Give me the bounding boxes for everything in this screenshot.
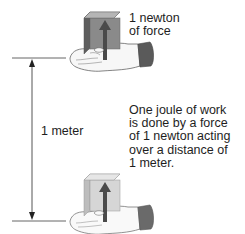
distance-label: 1 meter bbox=[41, 125, 83, 138]
sleeve-cuff-icon bbox=[138, 42, 154, 67]
description-line-4: over a distance of bbox=[129, 144, 230, 157]
sleeve-cuff-icon bbox=[138, 205, 154, 230]
force-arrow-shaft bbox=[103, 28, 107, 60]
force-label: 1 newton of force bbox=[129, 12, 180, 38]
description-line-5: 1 meter. bbox=[129, 157, 230, 170]
description-text: One joule of work is done by a force of … bbox=[129, 104, 230, 170]
arrow-down-head-icon bbox=[29, 212, 35, 220]
cube-side-face bbox=[84, 174, 90, 216]
arrow-up-head-icon bbox=[29, 59, 35, 67]
force-arrow-shaft bbox=[103, 190, 107, 222]
description-line-3: of 1 newton acting bbox=[129, 130, 230, 143]
force-label-line-2: of force bbox=[129, 25, 180, 38]
dimension-indicator bbox=[12, 58, 66, 221]
bottom-hand-with-cube bbox=[70, 174, 154, 234]
cube-side-face bbox=[84, 12, 90, 54]
